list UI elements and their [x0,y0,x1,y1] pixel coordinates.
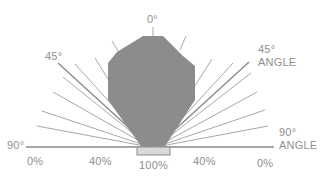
light-source-box [137,147,170,155]
label-45-right: 45° [258,43,275,55]
label-90-right-caption: ANGLE [279,139,317,151]
ray [180,36,186,50]
scale-label-right-0: 0% [257,157,273,169]
scale-label-center-100: 100% [139,159,168,171]
beam-pattern [108,36,195,146]
label-90-right: 90° [279,126,296,138]
label-90-left: 90° [7,139,24,151]
scale-label-left-0: 0% [27,155,43,167]
label-45-right-caption: ANGLE [258,56,296,68]
scale-label-left-40: 40% [89,155,112,167]
label-45-left: 45° [45,50,62,62]
label-0-degree: 0° [147,13,158,25]
scale-label-right-40: 40% [193,155,216,167]
beam-angle-diagram [0,0,327,179]
